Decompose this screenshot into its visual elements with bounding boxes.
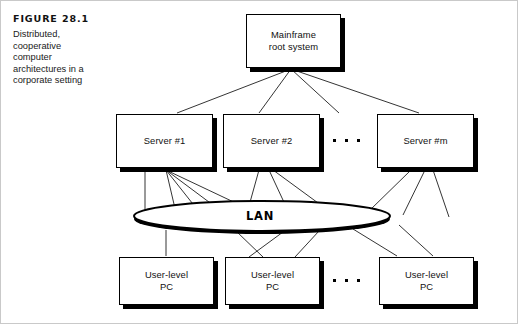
node-pc-n-line2: PC bbox=[405, 281, 448, 293]
node-mainframe-line2: root system bbox=[269, 41, 319, 53]
node-server-m-label: Server #m bbox=[403, 135, 447, 147]
node-mainframe-line1: Mainframe bbox=[269, 29, 319, 41]
node-mainframe[interactable]: Mainframe root system bbox=[246, 14, 341, 68]
ellipsis-dot bbox=[345, 139, 348, 142]
node-server-1-label: Server #1 bbox=[144, 135, 186, 147]
node-server-m[interactable]: Server #m bbox=[377, 114, 474, 168]
node-server-2[interactable]: Server #2 bbox=[223, 114, 320, 168]
node-pc-2-label: User-level PC bbox=[251, 269, 294, 293]
figure-container: FIGURE 28.1 Distributed, cooperative com… bbox=[0, 0, 518, 324]
node-pc-2-line2: PC bbox=[251, 281, 294, 293]
node-pc-2[interactable]: User-level PC bbox=[225, 257, 320, 305]
node-pc-2-line1: User-level bbox=[251, 269, 294, 281]
node-pc-1-line1: User-level bbox=[145, 269, 188, 281]
node-lan-label: LAN bbox=[1, 209, 518, 223]
node-mainframe-label: Mainframe root system bbox=[269, 29, 319, 53]
server-tier-ellipsis bbox=[333, 139, 360, 142]
ellipsis-dot bbox=[357, 279, 360, 282]
node-server-1-line1: Server #1 bbox=[144, 135, 186, 147]
ellipsis-dot bbox=[333, 139, 336, 142]
node-pc-n[interactable]: User-level PC bbox=[379, 257, 474, 305]
pc-tier-ellipsis bbox=[333, 279, 360, 282]
node-pc-n-label: User-level PC bbox=[405, 269, 448, 293]
node-pc-1[interactable]: User-level PC bbox=[119, 257, 214, 305]
node-pc-1-label: User-level PC bbox=[145, 269, 188, 293]
node-server-m-line1: Server #m bbox=[403, 135, 447, 147]
node-server-1[interactable]: Server #1 bbox=[116, 114, 213, 168]
link-lan-pcn-b bbox=[399, 225, 433, 256]
ellipsis-dot bbox=[357, 139, 360, 142]
node-pc-n-line1: User-level bbox=[405, 269, 448, 281]
link-mainframe-server1 bbox=[177, 69, 291, 113]
node-server-2-line1: Server #2 bbox=[251, 135, 293, 147]
node-server-2-label: Server #2 bbox=[251, 135, 293, 147]
link-mainframe-ellipsis bbox=[291, 69, 339, 113]
link-mainframe-serverm bbox=[291, 69, 419, 113]
ellipsis-dot bbox=[345, 279, 348, 282]
ellipsis-dot bbox=[333, 279, 336, 282]
node-pc-1-line2: PC bbox=[145, 281, 188, 293]
